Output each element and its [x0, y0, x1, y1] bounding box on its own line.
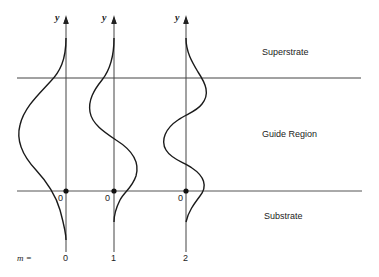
waveguide-mode-diagram: y y y 0 0 0 Superstrate Guide Region Sub…	[0, 0, 379, 277]
origin-dot-m1	[111, 188, 116, 193]
mode-profile-m2	[164, 38, 207, 222]
axis-label-y-m1: y	[102, 12, 106, 23]
axis-label-y-m0: y	[55, 12, 59, 23]
origin-dot-m0	[63, 188, 68, 193]
mode-profile-m0	[19, 38, 66, 240]
mode-profile-m1	[90, 38, 137, 222]
mode-prefix-label: m =	[17, 253, 32, 263]
mode-number-0: 0	[63, 253, 68, 263]
label-substrate: Substrate	[264, 211, 303, 221]
axis-arrow-m0	[64, 15, 69, 24]
label-guide-region: Guide Region	[262, 129, 317, 139]
diagram-canvas	[0, 0, 379, 277]
mode-number-2: 2	[183, 253, 188, 263]
axis-arrow-m2	[184, 15, 189, 24]
origin-label-m0: 0	[58, 193, 63, 203]
mode-number-1: 1	[111, 253, 116, 263]
origin-label-m1: 0	[105, 193, 110, 203]
axis-arrow-m1	[112, 15, 117, 24]
label-superstrate: Superstrate	[262, 47, 309, 57]
origin-dot-m2	[183, 188, 188, 193]
axis-label-y-m2: y	[175, 12, 179, 23]
origin-label-m2: 0	[178, 193, 183, 203]
